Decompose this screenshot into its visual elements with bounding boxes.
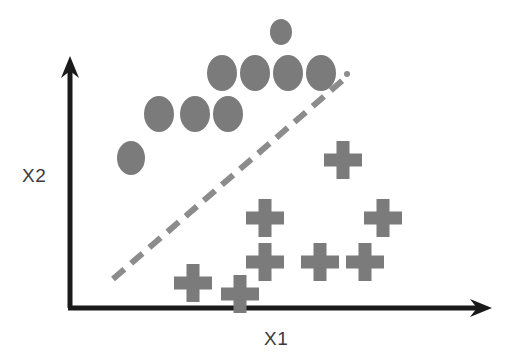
axes xyxy=(61,56,492,317)
class-ellipse-series xyxy=(117,19,336,175)
data-point-ellipse xyxy=(306,55,336,91)
data-point-ellipse xyxy=(273,55,303,91)
data-point-ellipse xyxy=(213,96,243,132)
y-axis-label: X2 xyxy=(22,166,46,185)
data-point-ellipse xyxy=(117,141,145,175)
data-point-cross xyxy=(246,199,284,237)
data-point-cross xyxy=(246,243,284,281)
data-point-ellipse xyxy=(240,55,270,91)
plot-canvas xyxy=(0,0,518,358)
data-point-ellipse xyxy=(207,55,237,91)
data-point-cross xyxy=(301,243,339,281)
x-axis-label: X1 xyxy=(264,329,288,348)
data-point-cross xyxy=(346,243,384,281)
decision-boundary-end-dot xyxy=(344,71,350,77)
class-cross-series xyxy=(174,141,402,313)
data-point-ellipse xyxy=(180,96,210,132)
data-point-cross xyxy=(364,199,402,237)
data-point-cross xyxy=(324,141,362,179)
data-point-ellipse xyxy=(144,96,174,132)
scatter-plot-figure: X2 X1 xyxy=(0,0,518,358)
data-point-cross xyxy=(174,264,212,302)
data-point-ellipse xyxy=(270,19,292,45)
